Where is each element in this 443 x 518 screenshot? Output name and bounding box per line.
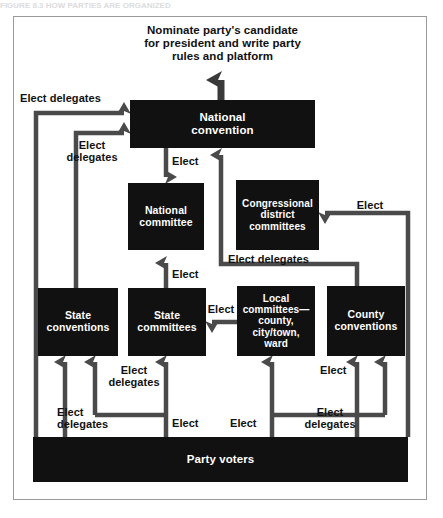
node-national-committee-label: National committee — [137, 205, 194, 229]
node-national-convention-label: National convention — [189, 111, 255, 137]
node-party-voters-label: Party voters — [185, 453, 257, 466]
edge-label-convention-to-committee: Elect — [172, 155, 212, 167]
figure-page: FIGURE 8.3 HOW PARTIES ARE ORGANIZED — [0, 0, 443, 518]
node-state-committees[interactable]: State committees — [128, 288, 206, 356]
edge-label-voters-to-local-b: Elect — [230, 417, 270, 429]
outcome-headline: Nominate party's candidate for president… — [125, 24, 320, 63]
node-local-committees-label: Local committees— county, city/town, war… — [241, 293, 312, 349]
edge-label-right-to-congressional: Elect — [350, 199, 390, 211]
edge-label-voters-to-county-delegates: Elect delegates — [295, 406, 365, 431]
node-county-conventions[interactable]: County conventions — [327, 286, 405, 356]
edge-label-voters-to-local-a: Elect — [172, 417, 212, 429]
edge-label-state-committees-up: Elect — [172, 268, 212, 280]
node-national-convention[interactable]: National convention — [130, 100, 315, 148]
edge-label-voters-to-state-conventions-delegates: Elect delegates — [57, 406, 127, 431]
edge-label-voters-to-county: Elect — [320, 364, 360, 376]
node-county-conventions-label: County conventions — [333, 309, 400, 333]
edge-label-local-to-state-committees: Elect — [203, 303, 239, 315]
node-state-conventions[interactable]: State conventions — [38, 288, 118, 356]
node-state-conventions-label: State conventions — [45, 310, 112, 334]
node-local-committees[interactable]: Local committees— county, city/town, war… — [237, 286, 315, 356]
node-state-committees-label: State committees — [135, 310, 198, 334]
edge-label-state-conventions-to-convention: Elect delegates — [62, 139, 122, 164]
edge-label-voters-to-state-conventions: Elect delegates — [105, 364, 163, 389]
node-congressional-district-committees[interactable]: Congressional district committees — [236, 180, 319, 250]
edge-label-voters-to-convention: Elect delegates — [20, 92, 135, 104]
node-party-voters[interactable]: Party voters — [33, 437, 408, 482]
node-national-committee[interactable]: National committee — [128, 183, 204, 250]
node-congressional-district-committees-label: Congressional district committees — [240, 198, 315, 232]
edge-label-county-to-convention: Elect delegates — [228, 253, 333, 265]
